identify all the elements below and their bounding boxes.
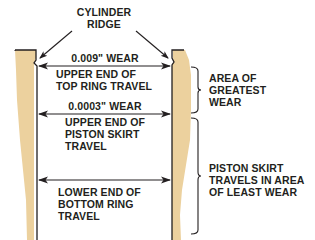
area-greatest-wear-label: AREA OF GREATEST WEAR xyxy=(209,72,309,108)
upper-end-top-ring-label: UPPER END OF TOP RING TRAVEL xyxy=(56,68,176,92)
top-wear-label: 0.009" WEAR xyxy=(50,52,160,64)
brace-greatest-wear-icon xyxy=(191,67,201,113)
lower-end-bottom-ring-label: LOWER END OF BOTTOM RING TRAVEL xyxy=(58,186,168,222)
left-cylinder-wall xyxy=(15,50,37,240)
cylinder-ridge-label: CYLINDER RIDGE xyxy=(68,6,140,30)
brace-least-wear-icon xyxy=(191,118,201,234)
piston-skirt-least-wear-label: PISTON SKIRT TRAVELS IN AREA OF LEAST WE… xyxy=(209,162,315,198)
upper-end-piston-skirt-label: UPPER END OF PISTON SKIRT TRAVEL xyxy=(65,116,175,152)
mid-wear-label: 0.0003" WEAR xyxy=(50,100,160,112)
